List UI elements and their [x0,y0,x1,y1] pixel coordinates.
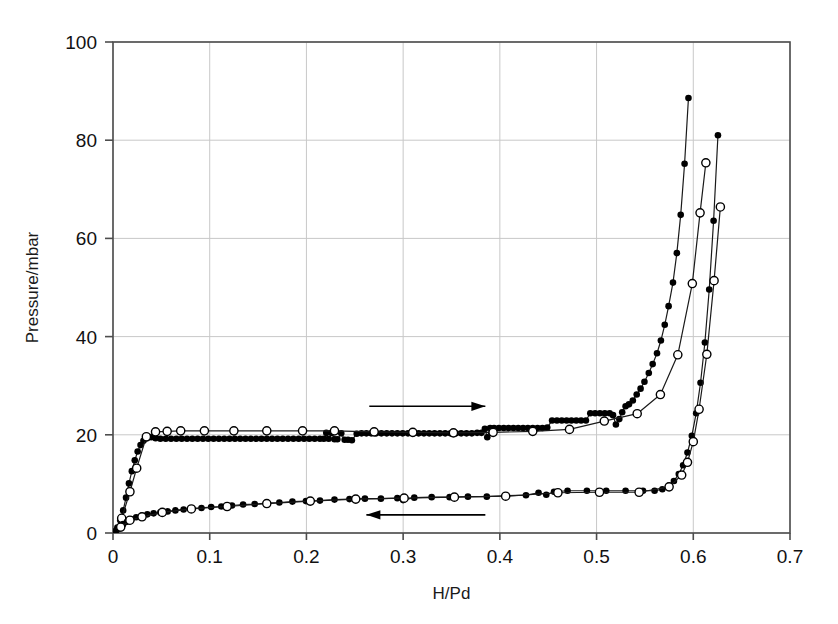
data-point-filled [584,487,591,494]
x-axis-label: H/Pd [433,584,471,603]
y-tick-label: 80 [76,130,97,151]
data-point-open [400,494,408,502]
data-point-open [502,492,510,500]
data-point-open [489,428,497,436]
data-point-open [306,497,314,505]
data-point-open [695,405,703,413]
data-point-open [263,499,271,507]
x-tick-label: 0.7 [777,546,803,567]
chart-background [0,0,838,624]
data-point-open [674,351,682,359]
data-point-open [702,159,710,167]
data-point-open [117,523,125,531]
data-point-filled [610,412,617,419]
x-tick-label: 0.2 [293,546,319,567]
data-point-open [635,488,643,496]
data-point-open [696,209,704,217]
data-point-filled [334,436,341,443]
data-point-filled [665,303,672,310]
y-tick-label: 0 [86,523,97,544]
y-axis-label: Pressure/mbar [23,231,42,343]
data-point-filled [349,437,356,444]
data-point-filled [670,279,677,286]
data-point-filled [649,361,656,368]
data-point-open [133,464,141,472]
x-tick-label: 0.1 [197,546,223,567]
data-point-open [450,493,458,501]
data-point-open [158,508,166,516]
data-point-filled [681,160,688,167]
data-point-open [230,427,238,435]
data-point-open [298,427,306,435]
y-tick-label: 20 [76,425,97,446]
data-point-open [678,471,686,479]
data-point-open [529,427,537,435]
x-tick-label: 0.4 [487,546,514,567]
data-point-open [142,433,150,441]
data-point-filled [661,322,668,329]
plot-svg: 00.10.20.30.40.50.60.7020406080100H/PdPr… [0,0,838,624]
data-point-filled [325,435,332,442]
figure-root: 00.10.20.30.40.50.60.7020406080100H/PdPr… [0,0,838,624]
data-point-filled [706,286,713,293]
data-point-filled [646,370,653,377]
data-point-open [223,502,231,510]
data-point-open [716,203,724,211]
data-point-filled [630,397,637,404]
data-point-filled [710,217,717,224]
y-tick-label: 60 [76,228,97,249]
data-point-open [689,438,697,446]
data-point-filled [641,378,648,385]
data-point-open [409,428,417,436]
x-tick-label: 0.6 [680,546,706,567]
data-point-open [656,390,664,398]
data-point-open [595,488,603,496]
data-point-filled [715,132,722,139]
data-point-filled [654,350,661,357]
data-point-open [449,429,457,437]
data-point-open [187,505,195,513]
data-point-filled [240,501,247,508]
data-point-filled [674,250,681,257]
data-point-open [138,513,146,521]
data-point-open [703,350,711,358]
data-point-open [126,488,134,496]
data-point-open [600,417,608,425]
data-point-filled [633,391,640,398]
data-point-open [263,427,271,435]
x-tick-label: 0.5 [583,546,609,567]
data-point-open [370,428,378,436]
data-point-filled [131,457,138,464]
data-point-filled [619,409,626,416]
data-point-open [330,427,338,435]
data-point-open [126,516,134,524]
data-point-open [710,277,718,285]
data-point-open [200,427,208,435]
data-point-open [352,495,360,503]
data-point-open [688,279,696,287]
data-point-filled [622,487,629,494]
data-point-filled [543,491,550,498]
data-point-filled [583,417,590,424]
x-tick-label: 0 [108,546,119,567]
data-point-filled [658,337,665,344]
data-point-open [177,427,185,435]
y-tick-label: 40 [76,327,97,348]
data-point-filled [637,385,644,392]
pct-isotherm-chart: 00.10.20.30.40.50.60.7020406080100H/PdPr… [0,0,838,624]
data-point-open [151,428,159,436]
data-point-open [633,410,641,418]
data-point-filled [677,212,684,219]
data-point-open [163,427,171,435]
data-point-filled [685,95,692,102]
data-point-open [554,489,562,497]
data-point-open [665,483,673,491]
data-point-filled [544,424,551,431]
data-point-filled [134,448,141,455]
x-tick-label: 0.3 [390,546,416,567]
data-point-open [565,425,573,433]
y-tick-label: 100 [65,32,97,53]
data-point-open [683,458,691,466]
data-point-filled [535,489,542,496]
